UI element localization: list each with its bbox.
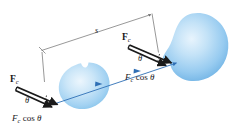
left-force-label: Fc [10, 75, 19, 86]
left-force-triangle [16, 87, 58, 107]
left-force-subscript: c [16, 78, 19, 85]
right-force-subscript: c [128, 36, 131, 43]
right-component-cos: cos [136, 72, 148, 82]
left-component-cos: cos [23, 113, 35, 123]
left-component-angle: θ [37, 113, 41, 123]
right-component-angle: θ [150, 72, 154, 82]
left-blue-blob [59, 62, 110, 109]
right-component-label: Fc cos θ [125, 73, 154, 84]
left-triangle-closing-leg [16, 87, 18, 91]
dimension-extension-line-left [42, 52, 45, 82]
distance-label: s [95, 27, 98, 35]
dimension-extension-line-right [152, 14, 159, 53]
right-triangle-closing-leg [128, 45, 130, 49]
left-component-label: Fc cos θ [12, 114, 41, 125]
right-angle-label: θ [138, 54, 142, 63]
right-force-label: Fc [122, 33, 131, 44]
left-force-vector-arrow [17, 87, 58, 105]
force-work-diagram: Fc θ Fc cos θ Fc θ Fc cos θ s [0, 0, 233, 138]
right-horizontal-component-arrow [128, 49, 166, 66]
left-angle-label: θ [25, 96, 29, 105]
right-blue-blob [163, 13, 229, 81]
